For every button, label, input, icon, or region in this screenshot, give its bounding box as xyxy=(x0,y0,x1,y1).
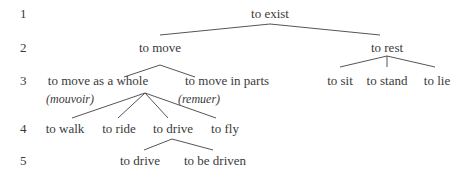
node-to-drive: to drive xyxy=(153,121,193,137)
level-3-label: 3 xyxy=(20,73,27,89)
node-to-be-driven: to be driven xyxy=(184,153,246,169)
node-to-fly: to fly xyxy=(211,121,239,137)
node-to-sit: to sit xyxy=(327,73,353,89)
gloss-remuer: (remuer) xyxy=(178,92,220,107)
node-to-lie: to lie xyxy=(424,73,450,89)
node-to-exist: to exist xyxy=(251,6,289,22)
level-1-label: 1 xyxy=(20,6,27,22)
node-to-drive-active: to drive xyxy=(120,153,160,169)
level-5-label: 5 xyxy=(20,153,27,169)
node-to-move: to move xyxy=(139,40,181,56)
node-to-stand: to stand xyxy=(367,73,408,89)
gloss-mouvoir: (mouvoir) xyxy=(46,92,94,107)
node-to-move-as-a-whole: to move as a whole xyxy=(48,73,148,89)
node-to-ride: to ride xyxy=(102,121,136,137)
node-to-move-in-parts: to move in parts xyxy=(185,73,269,89)
node-to-walk: to walk xyxy=(46,121,85,137)
level-4-label: 4 xyxy=(20,121,27,137)
level-2-label: 2 xyxy=(20,40,27,56)
node-to-rest: to rest xyxy=(371,40,403,56)
